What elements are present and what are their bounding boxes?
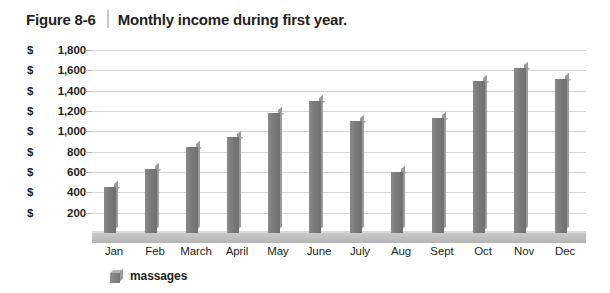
bar-april[interactable] bbox=[227, 137, 241, 233]
bar-aug[interactable] bbox=[391, 172, 405, 233]
bar-jan[interactable] bbox=[104, 187, 118, 233]
bar-slot bbox=[341, 35, 379, 233]
bar-nov[interactable] bbox=[514, 68, 528, 233]
y-axis-tick-label: $400 bbox=[26, 186, 88, 198]
y-axis-tick-mark bbox=[85, 172, 92, 173]
x-axis-label-oct: Oct bbox=[460, 245, 506, 257]
y-axis-tick-mark bbox=[85, 213, 92, 214]
legend-label-massages: massages bbox=[130, 269, 187, 283]
bar-series-massages bbox=[92, 40, 586, 238]
x-axis-label-june: June bbox=[296, 245, 342, 257]
bar-may[interactable] bbox=[268, 113, 282, 233]
y-axis-tick-mark bbox=[85, 192, 92, 193]
figure-container: Figure 8-6 Monthly income during first y… bbox=[0, 0, 610, 293]
x-axis-label-nov: Nov bbox=[501, 245, 547, 257]
y-axis-tick-label: $600 bbox=[26, 166, 88, 178]
chart-plot-area: $1,800$1,600$1,400$1,200$1,000$800$600$4… bbox=[26, 40, 586, 293]
x-axis: JanFebMarchAprilMayJuneJulyAugSeptOctNov… bbox=[92, 245, 586, 263]
bar-slot bbox=[382, 35, 420, 233]
bar-slot bbox=[95, 35, 133, 233]
y-axis: $1,800$1,600$1,400$1,200$1,000$800$600$4… bbox=[26, 40, 88, 240]
y-axis-tick-label: $1,600 bbox=[26, 64, 88, 76]
x-axis-label-sept: Sept bbox=[419, 245, 465, 257]
bar-feb[interactable] bbox=[145, 169, 159, 233]
bar-slot bbox=[259, 35, 297, 233]
y-axis-tick-label: $200 bbox=[26, 207, 88, 219]
series-color-swatch bbox=[110, 270, 123, 283]
y-axis-tick-label: $800 bbox=[26, 146, 88, 158]
bar-oct[interactable] bbox=[473, 81, 487, 234]
bar-slot bbox=[423, 35, 461, 233]
y-axis-tick-mark bbox=[85, 50, 92, 51]
y-axis-tick-label: $1,800 bbox=[26, 44, 88, 56]
page-title: Monthly income during first year. bbox=[118, 11, 347, 28]
x-axis-label-dec: Dec bbox=[542, 245, 588, 257]
bar-slot bbox=[300, 35, 338, 233]
chart-legend: massages bbox=[110, 269, 187, 283]
bar-slot bbox=[136, 35, 174, 233]
bar-june[interactable] bbox=[309, 101, 323, 233]
bar-slot bbox=[464, 35, 502, 233]
y-axis-tick-label: $1,000 bbox=[26, 125, 88, 137]
x-axis-label-april: April bbox=[214, 245, 260, 257]
figure-number: Figure 8-6 bbox=[26, 11, 96, 28]
x-axis-label-jan: Jan bbox=[91, 245, 137, 257]
bar-slot bbox=[546, 35, 584, 233]
x-axis-label-july: July bbox=[337, 245, 383, 257]
bar-slot bbox=[218, 35, 256, 233]
bar-march[interactable] bbox=[186, 147, 200, 233]
bar-july[interactable] bbox=[350, 121, 364, 233]
x-axis-label-feb: Feb bbox=[132, 245, 178, 257]
y-axis-tick-label: $1,400 bbox=[26, 85, 88, 97]
bar-dec[interactable] bbox=[555, 79, 569, 233]
bar-slot bbox=[177, 35, 215, 233]
y-axis-tick-mark bbox=[85, 152, 92, 153]
y-axis-tick-mark bbox=[85, 70, 92, 71]
y-axis-tick-mark bbox=[85, 111, 92, 112]
y-axis-tick-mark bbox=[85, 91, 92, 92]
caption-divider bbox=[107, 10, 109, 28]
x-axis-label-aug: Aug bbox=[378, 245, 424, 257]
y-axis-tick-label: $1,200 bbox=[26, 105, 88, 117]
bar-sept[interactable] bbox=[432, 118, 446, 233]
figure-caption: Figure 8-6 Monthly income during first y… bbox=[26, 8, 347, 30]
x-axis-label-march: March bbox=[173, 245, 219, 257]
x-axis-label-may: May bbox=[255, 245, 301, 257]
bar-slot bbox=[505, 35, 543, 233]
y-axis-tick-mark bbox=[85, 131, 92, 132]
